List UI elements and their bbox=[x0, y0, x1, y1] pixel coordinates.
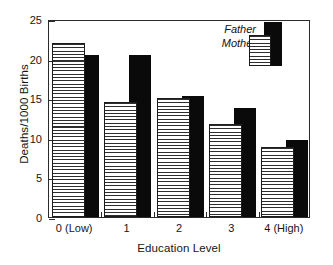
bar-mother bbox=[104, 102, 137, 217]
y-axis-title: Deaths/1000 Births bbox=[18, 14, 30, 214]
legend-label-father: Father bbox=[224, 23, 256, 35]
x-axis-tick-label: 4 (High) bbox=[249, 222, 319, 234]
y-axis-tick bbox=[49, 21, 55, 22]
chart-legend: Father Mother bbox=[196, 22, 308, 78]
legend-swatch-mother bbox=[249, 35, 271, 66]
y-axis-tick-label: 25 bbox=[2, 15, 42, 26]
y-axis-tick-label: 5 bbox=[2, 173, 42, 184]
y-axis-tick-label: 0 bbox=[2, 213, 42, 224]
x-axis-title: Education Level bbox=[48, 242, 310, 254]
x-axis-tick bbox=[154, 212, 155, 217]
y-axis-tick bbox=[49, 219, 55, 220]
x-axis-tick bbox=[101, 212, 102, 217]
x-axis-tick bbox=[259, 212, 260, 217]
bar-mother bbox=[209, 124, 242, 217]
bar-chart-figure: Deaths/1000 Births 0510152025 0 (Low)123… bbox=[0, 0, 333, 265]
x-axis-tick bbox=[206, 212, 207, 217]
bar-mother bbox=[52, 43, 85, 217]
bar-mother bbox=[261, 147, 294, 217]
y-axis-tick-label: 20 bbox=[2, 54, 42, 65]
y-axis-tick-label: 10 bbox=[2, 133, 42, 144]
bar-mother bbox=[157, 98, 190, 217]
y-axis-tick-label: 15 bbox=[2, 94, 42, 105]
